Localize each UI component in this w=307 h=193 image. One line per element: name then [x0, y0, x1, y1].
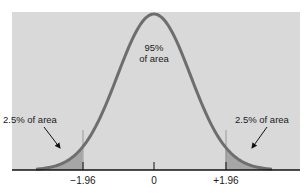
chart-panel	[12, 12, 300, 170]
tick-label-left: −1.96	[70, 176, 95, 186]
left-tail-label: 2.5% of area	[3, 115, 57, 125]
center-area-label-line1: 95%	[124, 43, 184, 53]
tick-label-center: 0	[151, 176, 157, 186]
tick-label-right: +1.96	[213, 176, 238, 186]
normal-distribution-chart	[0, 0, 307, 193]
right-tail-label: 2.5% of area	[235, 115, 289, 125]
center-area-label-line2: of area	[124, 54, 184, 64]
